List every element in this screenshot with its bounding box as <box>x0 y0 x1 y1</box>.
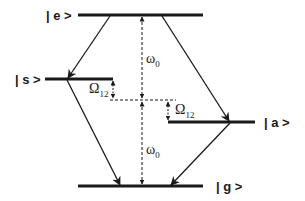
omega12-left-label: Ω12 <box>89 82 108 99</box>
omega0-upper-label: ω0 <box>146 52 160 69</box>
level-e-label: | e > <box>46 9 72 22</box>
energy-level-diagram <box>0 0 305 201</box>
level-g-label: | g > <box>216 180 242 193</box>
transition-e-to-s-arrow <box>68 16 110 78</box>
transition-e-to-a-arrow <box>162 16 229 121</box>
transition-a-to-g-arrow <box>171 123 230 185</box>
omega0-lower-label: ω0 <box>146 143 160 160</box>
omega12-right-label: Ω12 <box>175 103 194 120</box>
level-s-label: | s > <box>15 73 41 86</box>
level-a-label: | a > <box>264 116 290 129</box>
